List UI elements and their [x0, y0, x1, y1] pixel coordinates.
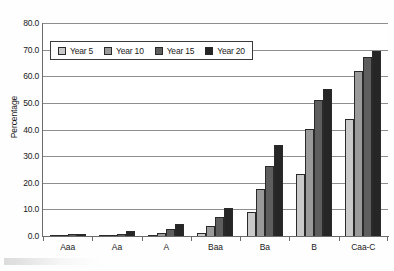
bar-chart: 80.070.060.050.040.030.020.010.00.0 Perc…	[0, 0, 394, 271]
x-axis-tick-labels: AaaAaABaaBaBCaa-C	[43, 242, 388, 252]
bar	[323, 89, 332, 236]
bar	[108, 235, 117, 236]
legend-label: Year 20	[217, 46, 245, 56]
x-axis-tick	[240, 236, 241, 241]
bar	[59, 235, 68, 236]
bar	[68, 234, 77, 236]
bar	[296, 174, 305, 236]
bar-group	[289, 23, 338, 236]
x-axis-tick	[92, 236, 93, 241]
bar	[148, 235, 157, 236]
bar	[99, 235, 108, 236]
bar	[274, 145, 283, 236]
y-axis-title: Percentage	[9, 72, 19, 162]
bar	[50, 235, 59, 236]
y-axis-tick-label: 80.0	[3, 18, 39, 28]
legend-item: Year 10	[104, 46, 144, 56]
bar	[354, 71, 363, 236]
x-axis-tick	[387, 236, 388, 241]
x-axis-tick	[142, 236, 143, 241]
legend-swatch-icon	[205, 47, 213, 55]
x-axis-tick-label: Ba	[240, 242, 289, 252]
bar	[224, 208, 233, 236]
legend-label: Year 10	[116, 46, 144, 56]
bar	[305, 129, 314, 236]
x-axis-tick	[289, 236, 290, 241]
chart-legend: Year 5Year 10Year 15Year 20	[50, 41, 253, 60]
bar	[117, 234, 126, 236]
bar	[126, 231, 135, 236]
legend-label: Year 15	[167, 46, 195, 56]
y-axis-tick-labels: 80.070.060.050.040.030.020.010.00.0	[0, 0, 39, 271]
bar	[372, 51, 381, 236]
bar	[157, 233, 166, 236]
x-axis-tick	[43, 236, 44, 241]
x-axis-tick	[339, 236, 340, 241]
bar	[314, 100, 323, 236]
legend-item: Year 5	[58, 46, 93, 56]
legend-item: Year 15	[155, 46, 195, 56]
x-axis-tick	[191, 236, 192, 241]
y-axis-tick-label: 10.0	[3, 204, 39, 214]
bar	[363, 57, 372, 236]
bar	[197, 233, 206, 236]
legend-swatch-icon	[58, 47, 66, 55]
legend-item: Year 20	[205, 46, 245, 56]
bar	[247, 212, 256, 236]
legend-swatch-icon	[155, 47, 163, 55]
bar	[256, 189, 265, 236]
bar	[206, 226, 215, 236]
y-axis-tick-label: 70.0	[3, 45, 39, 55]
bar-group	[339, 23, 388, 236]
bar	[77, 234, 86, 236]
x-axis-line	[42, 236, 389, 237]
bar	[345, 119, 354, 236]
x-axis-tick-label: Aa	[92, 242, 141, 252]
x-axis-tick-label: Caa-C	[339, 242, 388, 252]
y-axis-tick-label: 20.0	[3, 178, 39, 188]
x-axis-tick-label: Baa	[191, 242, 240, 252]
legend-swatch-icon	[104, 47, 112, 55]
x-axis-tick-label: Aaa	[43, 242, 92, 252]
bar	[265, 166, 274, 236]
legend-label: Year 5	[70, 46, 93, 56]
bar	[215, 217, 224, 236]
bar	[175, 224, 184, 236]
x-axis-tick-label: A	[142, 242, 191, 252]
bar	[166, 229, 175, 236]
x-axis-tick-label: B	[289, 242, 338, 252]
y-axis-tick-label: 0.0	[3, 231, 39, 241]
scan-artifact	[4, 258, 100, 265]
